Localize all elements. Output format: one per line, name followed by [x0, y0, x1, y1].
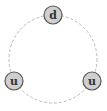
- dashed-ring: [9, 15, 97, 103]
- node-bottom-right: u: [83, 72, 101, 90]
- cycle-diagram: d u u: [0, 0, 107, 111]
- node-top: d: [44, 6, 62, 24]
- node-label: d: [49, 9, 57, 22]
- node-label: u: [10, 75, 18, 88]
- node-bottom-left: u: [5, 72, 23, 90]
- node-label: u: [88, 75, 96, 88]
